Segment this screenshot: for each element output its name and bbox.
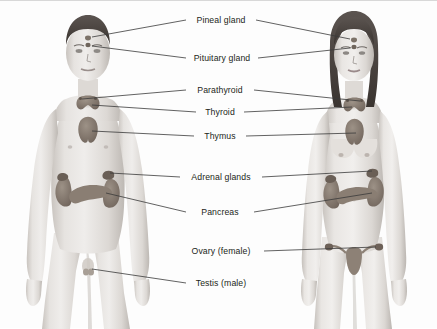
label-pancreas: Pancreas	[201, 208, 239, 217]
male-testis	[82, 258, 94, 276]
male-pineal-gland	[85, 36, 91, 41]
label-ovary-female: Ovary (female)	[192, 247, 251, 256]
label-thyroid: Thyroid	[205, 108, 235, 117]
label-pituitary-gland: Pituitary gland	[194, 54, 251, 63]
male-figure	[26, 15, 150, 329]
female-ovary-left	[325, 244, 333, 251]
female-figure	[301, 11, 407, 329]
label-pineal-gland: Pineal gland	[196, 16, 245, 25]
label-testis-male: Testis (male)	[196, 279, 247, 288]
female-pineal-gland	[351, 38, 357, 43]
male-thymus-gland	[78, 117, 98, 143]
label-thymus: Thymus	[204, 132, 236, 141]
label-parathyroid: Parathyroid	[197, 86, 243, 95]
female-pituitary-gland	[351, 45, 356, 49]
female-ovary-right	[375, 244, 383, 251]
leader-parathyroid-female	[254, 90, 360, 101]
female-thymus-gland	[345, 119, 364, 145]
label-adrenal-glands: Adrenal glands	[191, 173, 250, 182]
male-pituitary-gland	[85, 43, 90, 47]
